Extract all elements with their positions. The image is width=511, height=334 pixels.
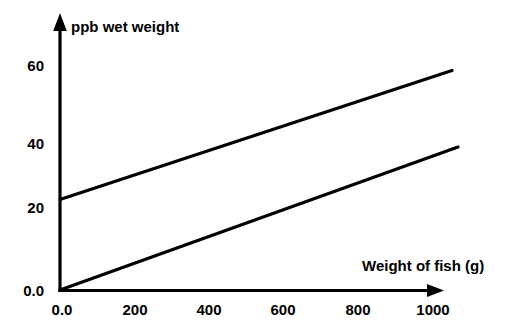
chart-figure: ppb wet weight Weight of fish (g) 60 40 … <box>0 0 511 334</box>
y-tick-label-40: 40 <box>0 136 44 151</box>
y-axis <box>53 13 67 292</box>
x-axis-title: Weight of fish (g) <box>362 258 484 273</box>
y-tick-label-0: 0.0 <box>0 283 44 298</box>
x-tick-label-0: 0.0 <box>32 302 92 317</box>
y-axis-arrowhead <box>53 13 67 31</box>
y-tick-label-60: 60 <box>0 58 44 73</box>
chart-plot-area <box>0 0 511 334</box>
series-line-upper <box>60 71 452 200</box>
x-tick-label-800: 800 <box>328 302 388 317</box>
x-tick-label-200: 200 <box>105 302 165 317</box>
x-tick-label-600: 600 <box>253 302 313 317</box>
y-tick-label-20: 20 <box>0 200 44 215</box>
x-axis <box>58 284 444 297</box>
x-axis-arrowhead <box>427 284 444 297</box>
x-tick-label-400: 400 <box>179 302 239 317</box>
x-tick-label-1000: 1000 <box>403 302 463 317</box>
y-axis-title: ppb wet weight <box>71 19 179 34</box>
